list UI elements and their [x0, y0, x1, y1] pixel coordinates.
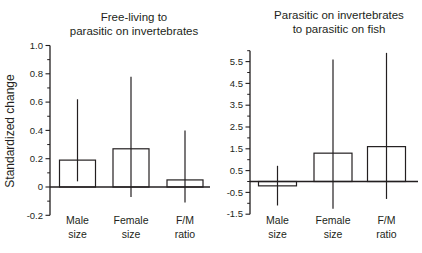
- category-label-0-line2: size: [268, 228, 287, 240]
- category-label-1-line1: Female: [113, 214, 148, 226]
- right-chart: 5.54.53.52.51.50.5-0.5-1.5MalesizeFemale…: [227, 51, 418, 240]
- category-label-1-line2: size: [122, 228, 141, 240]
- y-tick-label: 1.5: [230, 143, 243, 154]
- category-label-0-line1: Male: [66, 214, 89, 226]
- y-tick-label: 0.2: [30, 153, 43, 164]
- y-tick-label: 1.0: [30, 40, 43, 51]
- y-tick-label: 0.6: [30, 96, 43, 107]
- y-tick-label: -0.2: [27, 210, 43, 221]
- y-tick-label: -0.5: [227, 187, 243, 198]
- category-label-1-line1: Female: [315, 214, 350, 226]
- category-label-2-line1: F/M: [377, 214, 395, 226]
- y-tick-label: 4.5: [230, 78, 243, 89]
- y-tick-label: -1.5: [227, 208, 243, 219]
- y-tick-label: 2.5: [230, 121, 243, 132]
- y-tick-label: 5.5: [230, 56, 243, 67]
- category-label-2-line2: ratio: [376, 228, 397, 240]
- figure-canvas: Standardized change 1.00.80.60.40.20-0.2…: [0, 0, 422, 253]
- y-tick-label: 0: [38, 181, 43, 192]
- y-tick-label: 3.5: [230, 99, 243, 110]
- category-label-0-line1: Male: [266, 214, 289, 226]
- category-label-2-line1: F/M: [176, 214, 194, 226]
- y-tick-label: 0.8: [30, 68, 43, 79]
- y-tick-label: 0.4: [30, 125, 43, 136]
- category-label-0-line2: size: [68, 228, 87, 240]
- y-tick-label: 0.5: [230, 165, 243, 176]
- y-axis-label: Standardized change: [3, 74, 17, 188]
- left-chart: 1.00.80.60.40.20-0.2MalesizeFemalesizeF/…: [27, 40, 210, 240]
- category-label-1-line2: size: [324, 228, 343, 240]
- category-label-2-line2: ratio: [175, 228, 196, 240]
- figure: Free-living to parasitic on invertebrate…: [0, 0, 422, 253]
